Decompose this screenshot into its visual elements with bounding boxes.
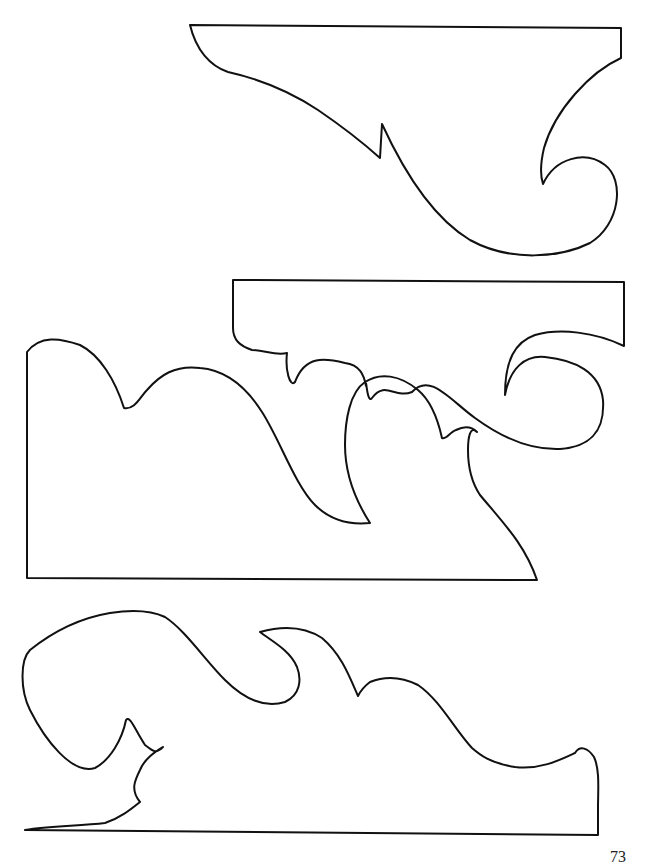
middle-scroll-bracket-outline [233,280,624,449]
large-wave-bracket-outline [27,339,537,580]
bottom-scroll-bracket-outline [23,611,599,835]
page-number: 73 [610,848,626,866]
top-bracket-outline [190,25,621,255]
